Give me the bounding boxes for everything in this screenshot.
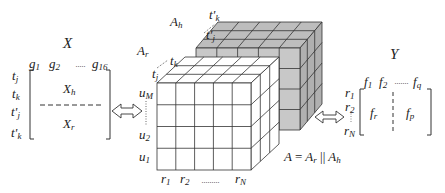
col-label-rn: rN: [235, 172, 246, 187]
row-label-tpj: t'j: [11, 105, 20, 120]
row-label-r2: r2: [345, 100, 355, 115]
block-label-fp: fp: [406, 106, 414, 121]
col-label-g16: g16: [92, 57, 108, 72]
matrix-x-title: X: [63, 36, 72, 51]
depth-label-tj: tj: [152, 67, 158, 82]
diagram-canvas: X g1 g2 ····· g16 tj tk t'j t'k Xh Xr Ah…: [0, 0, 445, 193]
row-label-um: uM: [139, 86, 153, 101]
double-arrow-right: [315, 111, 344, 123]
row-label-u1: u1: [139, 150, 150, 165]
col-ellipsis: ·····: [75, 62, 85, 71]
col-ellipsis-f: ·······: [394, 79, 408, 88]
row-label-tj: tj: [12, 69, 18, 84]
col-label-r1: r1: [161, 172, 171, 187]
col-label-f1: f1: [364, 75, 372, 90]
depth-label-tk: tk: [170, 54, 178, 69]
double-arrow-left: [112, 104, 142, 118]
block-label-ah: Ah: [170, 15, 182, 30]
row-label-rn: rN: [344, 124, 355, 139]
matrix-y-title: Y: [390, 47, 398, 62]
col-label-g1: g1: [29, 57, 40, 72]
block-label-xh: Xh: [63, 82, 75, 97]
depth-label-tpk: t'k: [209, 8, 219, 23]
row-label-tk: tk: [12, 87, 20, 102]
tensor-block-ar: [157, 57, 279, 170]
equation-a-concat: A = Ar || Ah: [284, 150, 341, 165]
col-label-g2: g2: [49, 57, 60, 72]
col-label-r2: r2: [180, 172, 190, 187]
col-label-f2: f2: [379, 75, 387, 90]
block-label-xr: Xr: [63, 117, 74, 132]
block-label-fr: fr: [370, 106, 377, 121]
row-label-u2: u2: [139, 128, 150, 143]
col-ellipsis-r: ·········: [201, 178, 219, 187]
col-label-fq: fq: [413, 75, 421, 90]
depth-label-tpj: t'j: [206, 28, 215, 43]
block-label-ar: Ar: [137, 44, 148, 59]
row-label-tpk: t'k: [11, 126, 21, 141]
